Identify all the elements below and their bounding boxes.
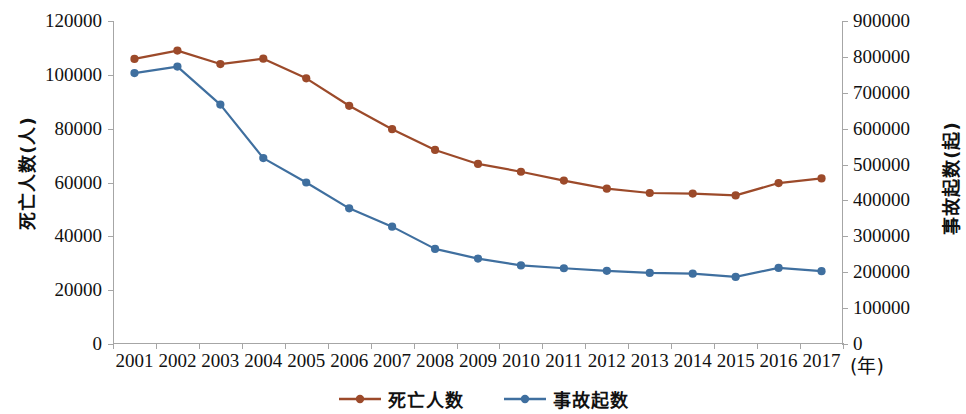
x-axis-unit-label: (年) (850, 351, 884, 378)
data-point-marker (603, 185, 611, 193)
y-axis-left-tick: 120000 (0, 11, 102, 30)
y-axis-right-tick: 400000 (853, 190, 910, 209)
data-point-marker (173, 62, 181, 70)
data-point-marker (774, 179, 782, 187)
legend-marker-icon (337, 391, 383, 407)
data-point-marker (259, 55, 267, 63)
data-point-marker (431, 245, 439, 253)
data-point-marker (130, 55, 138, 63)
data-point-marker (517, 261, 525, 269)
data-point-marker (517, 168, 525, 176)
data-point-marker (216, 60, 224, 68)
data-point-marker (474, 254, 482, 262)
data-point-marker (302, 178, 310, 186)
y-axis-right-tick: 500000 (853, 155, 910, 174)
series-line (134, 51, 821, 196)
data-point-marker (646, 189, 654, 197)
tickmark-bottom (843, 343, 844, 349)
data-point-marker (431, 146, 439, 154)
data-point-marker (173, 47, 181, 55)
chart-legend: 死亡人数事故起数 (0, 386, 966, 412)
y-axis-right-tick: 700000 (853, 83, 910, 102)
data-point-marker (345, 102, 353, 110)
series-secondary (130, 62, 825, 281)
chart-figure: 死亡人数(人) 事故起数(起) 020000400006000080000100… (0, 0, 966, 414)
y-axis-left-tick: 40000 (0, 226, 102, 245)
y-axis-right-tick: 200000 (853, 262, 910, 281)
data-point-marker (216, 101, 224, 109)
x-axis-tick: 2017 (797, 351, 847, 370)
y-axis-left-tick: 20000 (0, 280, 102, 299)
data-point-marker (817, 174, 825, 182)
data-point-marker (732, 191, 740, 199)
y-axis-left-tick: 80000 (0, 119, 102, 138)
data-point-marker (732, 273, 740, 281)
plot-area (113, 21, 843, 344)
data-point-marker (259, 154, 267, 162)
data-point-marker (474, 160, 482, 168)
y-axis-right-tick: 900000 (853, 11, 910, 30)
legend-item-1[interactable]: 死亡人数 (337, 386, 464, 412)
data-point-marker (603, 267, 611, 275)
y-axis-left-tick: 60000 (0, 173, 102, 192)
legend-item-2[interactable]: 事故起数 (502, 386, 629, 412)
data-point-marker (817, 267, 825, 275)
data-point-marker (388, 125, 396, 133)
data-point-marker (560, 177, 568, 185)
data-point-marker (345, 204, 353, 212)
y-axis-right-tick: 300000 (853, 226, 910, 245)
data-point-marker (646, 269, 654, 277)
legend-label: 死亡人数 (388, 386, 464, 412)
y-axis-left-tick: 0 (0, 334, 102, 353)
data-point-marker (130, 69, 138, 77)
series-lines (113, 21, 843, 344)
series-line (134, 67, 821, 277)
y-axis-right-tick: 100000 (853, 298, 910, 317)
y-axis-right-tick: 600000 (853, 119, 910, 138)
data-point-marker (689, 189, 697, 197)
legend-marker-icon (502, 391, 548, 407)
y-axis-right-tick: 800000 (853, 47, 910, 66)
data-point-marker (302, 74, 310, 82)
data-point-marker (560, 264, 568, 272)
data-point-marker (689, 270, 697, 278)
y-axis-right-title: 事故起数(起) (937, 108, 963, 248)
y-axis-left-tick: 100000 (0, 65, 102, 84)
data-point-marker (774, 264, 782, 272)
data-point-marker (388, 223, 396, 231)
legend-label: 事故起数 (553, 386, 629, 412)
